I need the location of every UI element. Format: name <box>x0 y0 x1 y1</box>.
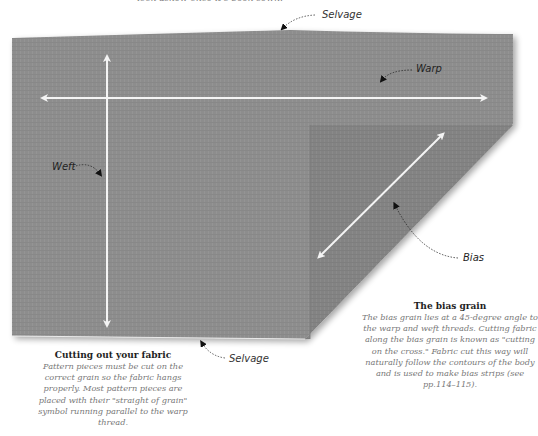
bias-caption-body: The bias grain lies at a 45-degree angle… <box>362 312 538 390</box>
selvage-bottom-label: Selvage <box>229 353 269 364</box>
bias-label: Bias <box>463 252 484 263</box>
cutting-caption-title: Cutting out your fabric <box>38 350 188 360</box>
cutting-caption: Cutting out your fabric Pattern pieces m… <box>38 350 188 428</box>
warp-label: Warp <box>416 63 442 74</box>
selvage-top-pointer-icon <box>283 15 315 28</box>
bias-caption-title: The bias grain <box>362 301 538 311</box>
bias-caption: The bias grain The bias grain lies at a … <box>362 301 538 390</box>
cutting-caption-body: Pattern pieces must be cut on the correc… <box>38 361 188 428</box>
weft-label: Weft <box>52 161 77 172</box>
selvage-bottom-pointer-icon <box>202 343 225 358</box>
selvage-top-label: Selvage <box>322 9 362 20</box>
